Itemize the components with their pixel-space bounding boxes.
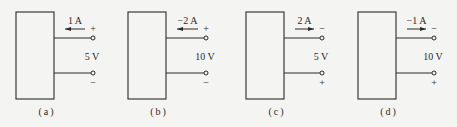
top-polarity: − (431, 23, 437, 34)
current-label: −2 A (178, 15, 199, 26)
top-polarity: + (90, 23, 96, 34)
top-terminal-icon (432, 36, 436, 40)
current-label: 1 A (68, 15, 83, 26)
bottom-polarity: + (431, 77, 437, 88)
panel-b: −2 A+−10 V(b) (128, 12, 216, 118)
top-polarity: + (203, 23, 209, 34)
panel-a: 1 A+−5 V(a) (16, 12, 100, 118)
panel-caption: (c) (268, 106, 285, 118)
network-box (16, 12, 54, 99)
top-polarity: − (319, 23, 325, 34)
panel-c: 2 A−+5 V(c) (246, 12, 329, 118)
bottom-terminal-icon (91, 71, 95, 75)
bottom-polarity: + (319, 77, 325, 88)
arrow-right-icon (308, 27, 314, 31)
bottom-terminal-icon (432, 71, 436, 75)
bottom-polarity: − (90, 77, 96, 88)
network-box (246, 12, 284, 99)
voltage-label: 5 V (314, 51, 329, 62)
current-label: −1 A (407, 15, 428, 26)
voltage-label: 10 V (195, 51, 215, 62)
arrow-left-icon (177, 27, 183, 31)
arrow-left-icon (65, 27, 71, 31)
top-terminal-icon (204, 36, 208, 40)
panel-caption: (b) (150, 106, 168, 118)
current-label: 2 A (297, 15, 312, 26)
bottom-terminal-icon (320, 71, 324, 75)
network-box (128, 12, 166, 99)
circuit-figure: 1 A+−5 V(a) −2 A+−10 V(b) 2 A−+5 V(c) −1… (0, 0, 457, 127)
panel-caption: (d) (380, 106, 398, 118)
top-terminal-icon (320, 36, 324, 40)
bottom-polarity: − (203, 77, 209, 88)
bottom-terminal-icon (204, 71, 208, 75)
voltage-label: 5 V (85, 51, 100, 62)
arrow-right-icon (420, 27, 426, 31)
network-box (358, 12, 396, 99)
top-terminal-icon (91, 36, 95, 40)
voltage-label: 10 V (423, 51, 443, 62)
panel-caption: (a) (38, 106, 55, 118)
panel-d: −1 A−+10 V(d) (358, 12, 444, 118)
